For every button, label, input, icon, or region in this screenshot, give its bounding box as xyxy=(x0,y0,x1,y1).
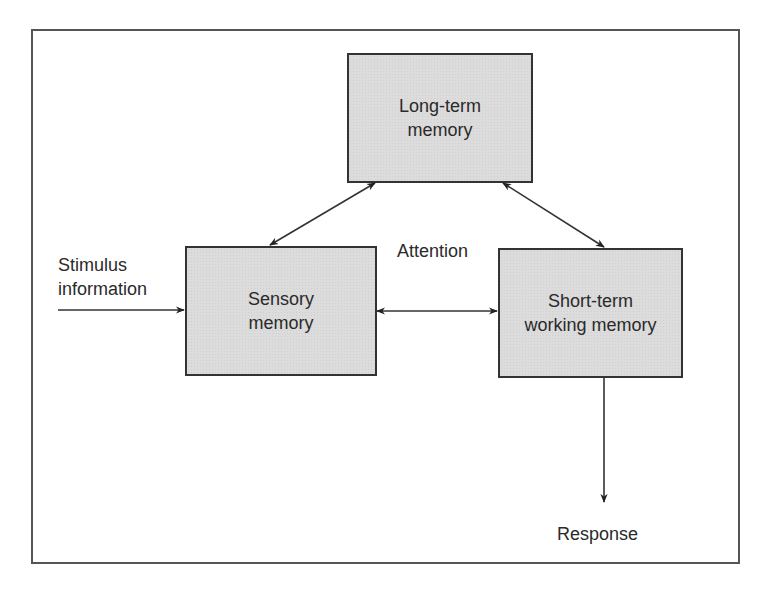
stimulus-information-label: Stimulus information xyxy=(58,253,147,301)
short-term-working-memory-box: Short-term working memory xyxy=(498,248,683,378)
sensory-memory-label-line1: Sensory xyxy=(248,287,314,311)
sensory-memory-box: Sensory memory xyxy=(185,246,377,376)
long-term-memory-label-line1: Long-term xyxy=(399,94,481,118)
response-label: Response xyxy=(557,522,638,546)
sensory-memory-label-line2: memory xyxy=(248,311,314,335)
attention-label: Attention xyxy=(397,239,468,263)
stimulus-label-line1: Stimulus xyxy=(58,253,147,277)
long-term-memory-label-line2: memory xyxy=(399,118,481,142)
short-term-memory-label-line1: Short-term xyxy=(524,289,656,313)
long-term-memory-box: Long-term memory xyxy=(347,53,533,183)
stimulus-label-line2: information xyxy=(58,277,147,301)
short-term-memory-label-line2: working memory xyxy=(524,313,656,337)
